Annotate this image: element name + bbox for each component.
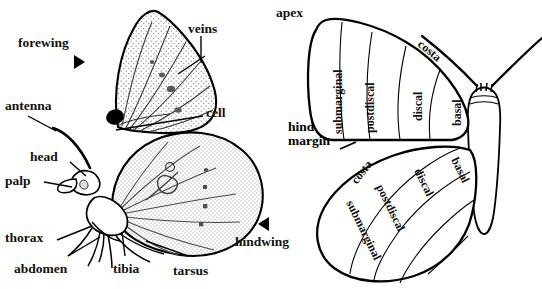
eye xyxy=(80,180,88,189)
antenna-line xyxy=(53,128,90,168)
label-hindwing: hindwing xyxy=(235,235,289,249)
hind-margin-tick xyxy=(340,142,356,149)
label-apex: apex xyxy=(276,6,303,20)
right-butterfly xyxy=(308,19,542,283)
label-tibia: tibia xyxy=(113,262,139,276)
label-antenna: antenna xyxy=(5,99,52,113)
hindwing-pointer-triangle-icon xyxy=(258,217,269,231)
zone-forewing-discal: discal xyxy=(411,92,426,121)
label-thorax: thorax xyxy=(5,231,43,245)
leader-thorax xyxy=(57,226,92,240)
zone-forewing-postdiscal: postdiscal xyxy=(363,82,378,133)
label-hind-margin-line1: hind xyxy=(288,120,330,134)
label-tarsus: tarsus xyxy=(173,264,208,278)
label-head: head xyxy=(30,150,58,164)
antenna-right xyxy=(492,38,542,86)
label-hind-margin: hind margin xyxy=(288,120,330,148)
forewing-pointer-triangle-icon xyxy=(74,55,85,69)
label-palp: palp xyxy=(5,174,31,188)
figure-canvas: forewing veins cell antenna head palp th… xyxy=(0,0,542,289)
label-hind-margin-line2: margin xyxy=(288,134,330,148)
leader-antenna xyxy=(28,116,56,131)
label-abdomen: abdomen xyxy=(14,262,67,276)
zone-forewing-submarginal: submarginal xyxy=(331,69,346,134)
zone-forewing-basal: basal xyxy=(450,99,465,126)
label-cell: cell xyxy=(206,106,226,120)
label-veins: veins xyxy=(188,22,217,36)
label-forewing: forewing xyxy=(18,36,69,50)
